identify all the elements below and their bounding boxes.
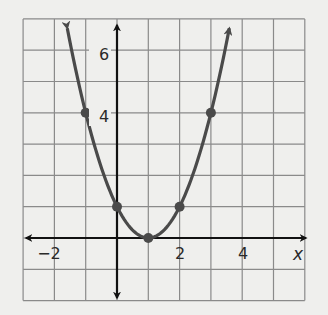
x-axis-label: x xyxy=(292,244,304,264)
y-tick-label-4: 4 xyxy=(99,107,109,126)
data-point xyxy=(175,202,185,212)
x-tick-label-2: 2 xyxy=(175,244,185,263)
x-tick-label-neg2: −2 xyxy=(37,244,61,263)
data-point xyxy=(112,202,122,212)
x-tick-label-4: 4 xyxy=(238,244,248,263)
graph: 6 4 −2 2 4 x xyxy=(0,0,328,315)
data-point xyxy=(206,108,216,118)
y-tick-label-6: 6 xyxy=(99,45,109,64)
data-point xyxy=(143,233,153,243)
grid-lines xyxy=(23,19,305,301)
